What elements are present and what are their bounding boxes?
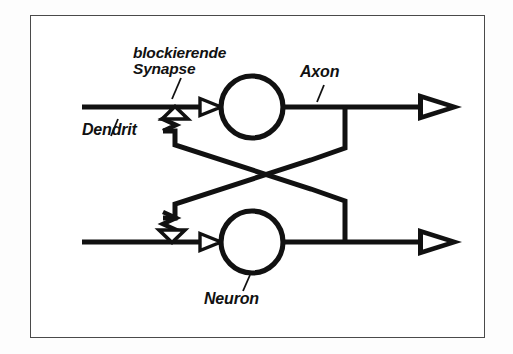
neuron-bottom-circle-icon [221,211,283,273]
dendrite-top-input-arrowhead-icon [200,99,221,116]
neuron-top-circle-icon [221,76,283,138]
axon-top-terminal-arrowhead-icon [418,93,462,121]
synapse-top-inhibitory-icon [162,107,188,132]
label-dendrit: Dendrit [82,122,137,139]
label-axon: Axon [300,64,339,81]
label-blockierende-synapse: blockierende Synapse [133,45,226,78]
synapse-bottom-inhibitory-icon [159,212,185,243]
dendrite-bottom-input-arrowhead-icon [200,234,221,251]
leader-line-axon [317,85,324,102]
axon-bottom-terminal-arrowhead-icon [418,228,462,256]
leader-line-synapse [172,78,181,99]
leader-line-neuron [243,275,250,291]
diagram-page: blockierende Synapse Dendrit Axon Neuron [0,0,513,354]
label-neuron: Neuron [204,291,259,308]
